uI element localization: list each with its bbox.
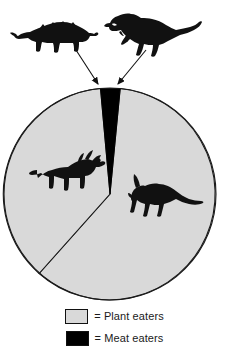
legend-label-meat-eaters: = Meat eaters: [95, 332, 164, 345]
figure-root: = Plant eaters = Meat eaters: [0, 0, 229, 354]
meat-eaters-swatch: [66, 331, 89, 346]
legend-item-meat-eaters[interactable]: = Meat eaters: [66, 330, 164, 347]
legend-item-plant-eaters[interactable]: = Plant eaters: [65, 308, 164, 325]
meat-eater-arrow: [118, 50, 146, 84]
theropod-silhouette: [104, 14, 202, 57]
plant-eaters-swatch: [65, 309, 88, 324]
ankylosaur-silhouette: [10, 21, 98, 53]
legend-label-plant-eaters: = Plant eaters: [94, 310, 164, 323]
legend: = Plant eaters = Meat eaters: [0, 308, 229, 347]
plant-eater-arrow: [76, 50, 98, 84]
chart-canvas: [0, 0, 229, 354]
